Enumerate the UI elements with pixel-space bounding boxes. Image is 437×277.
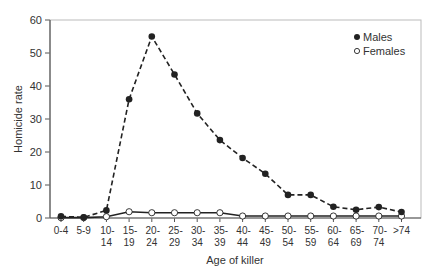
x-tick-label: 10- xyxy=(100,225,114,236)
females-data-point xyxy=(308,213,314,219)
females-data-point xyxy=(171,210,177,216)
legend-males-label: Males xyxy=(363,31,393,43)
males-data-point xyxy=(171,71,178,78)
x-tick-label: >74 xyxy=(393,225,410,236)
females-data-point xyxy=(217,210,223,216)
males-data-point xyxy=(149,33,156,40)
x-tick-label: 0-4 xyxy=(54,225,69,236)
males-data-point xyxy=(353,206,360,213)
females-data-point xyxy=(149,210,155,216)
x-tick-label: 35- xyxy=(214,225,228,236)
x-tick-label-line2: 64 xyxy=(328,237,340,248)
x-tick-label: 20- xyxy=(146,225,160,236)
x-tick-label-line2: 49 xyxy=(260,237,272,248)
males-legend-marker-icon xyxy=(354,34,360,40)
y-axis-ticks: 0102030405060 xyxy=(30,14,50,224)
males-line xyxy=(61,37,402,218)
females-data-point xyxy=(194,210,200,216)
males-data-point xyxy=(217,137,224,144)
males-data-point xyxy=(126,96,133,103)
x-tick-label: 5-9 xyxy=(76,225,91,236)
x-tick-label-line2: 19 xyxy=(124,237,136,248)
males-data-point xyxy=(194,110,201,117)
y-tick-label: 40 xyxy=(30,80,42,92)
x-tick-label-line2: 14 xyxy=(101,237,113,248)
x-axis-label: Age of killer xyxy=(206,254,264,266)
series-layer xyxy=(58,33,405,221)
x-tick-label: 25- xyxy=(168,225,182,236)
y-tick-label: 60 xyxy=(30,14,42,26)
x-tick-label: 45- xyxy=(259,225,273,236)
females-data-point xyxy=(376,213,382,219)
homicide-rate-chart: 0102030405060 0-45-910-1415-1920-2425-29… xyxy=(0,0,437,277)
x-tick-label-line2: 54 xyxy=(282,237,294,248)
females-data-point xyxy=(353,213,359,219)
x-tick-label: 30- xyxy=(191,225,205,236)
y-tick-label: 30 xyxy=(30,113,42,125)
x-axis-ticks: 0-45-910-1415-1920-2425-2930-3435-3940-4… xyxy=(54,218,411,248)
males-data-point xyxy=(239,155,246,162)
males-data-point xyxy=(80,214,87,221)
x-tick-label-line2: 59 xyxy=(305,237,317,248)
y-tick-label: 50 xyxy=(30,47,42,59)
y-axis-label: Homicide rate xyxy=(12,85,24,153)
x-tick-label-line2: 69 xyxy=(351,237,363,248)
males-data-point xyxy=(58,213,65,220)
females-data-point xyxy=(330,213,336,219)
y-tick-label: 10 xyxy=(30,179,42,191)
males-data-point xyxy=(376,204,383,211)
y-tick-label: 20 xyxy=(30,146,42,158)
males-data-point xyxy=(398,209,405,216)
x-tick-label-line2: 34 xyxy=(192,237,204,248)
females-data-point xyxy=(126,209,132,215)
females-legend-marker-icon xyxy=(354,48,359,53)
males-data-point xyxy=(307,192,314,199)
x-tick-label-line2: 44 xyxy=(237,237,249,248)
x-tick-label: 65- xyxy=(350,225,364,236)
females-data-point xyxy=(285,213,291,219)
males-data-point xyxy=(330,203,337,210)
legend-females-label: Females xyxy=(363,45,406,57)
x-tick-label-line2: 24 xyxy=(146,237,158,248)
females-line xyxy=(61,212,402,218)
x-tick-label: 60- xyxy=(327,225,341,236)
x-tick-label: 55- xyxy=(304,225,318,236)
x-tick-label-line2: 39 xyxy=(214,237,226,248)
females-data-point xyxy=(103,214,109,220)
y-tick-label: 0 xyxy=(36,212,42,224)
x-tick-label: 40- xyxy=(236,225,250,236)
x-tick-label: 15- xyxy=(123,225,137,236)
males-data-point xyxy=(285,192,292,199)
males-data-point xyxy=(262,170,269,177)
x-tick-label-line2: 29 xyxy=(169,237,181,248)
x-tick-label: 50- xyxy=(282,225,296,236)
females-data-point xyxy=(240,213,246,219)
x-tick-label-line2: 74 xyxy=(373,237,385,248)
females-data-point xyxy=(262,213,268,219)
x-tick-label: 70- xyxy=(373,225,387,236)
legend: Males Females xyxy=(354,31,406,57)
males-data-point xyxy=(103,207,110,214)
